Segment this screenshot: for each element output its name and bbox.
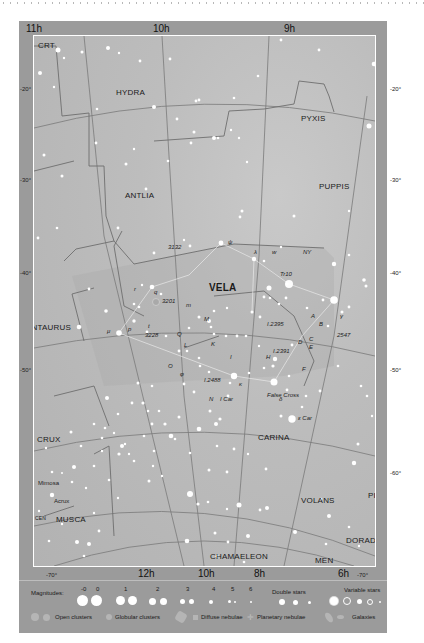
dso-label-ny: NY — [303, 249, 311, 255]
dec-right-40: -40° — [390, 270, 401, 276]
dec-left-70: -70° — [46, 572, 57, 578]
constellation-chamaeleon: CHAMAELEON — [210, 552, 268, 561]
mag-dot-3a — [180, 599, 185, 604]
constellation-musca: MUSCA — [56, 515, 86, 524]
double-star-icon — [293, 600, 298, 605]
star-label-A: A — [311, 313, 315, 319]
dec-left-40: -40° — [20, 270, 31, 276]
dso-label-3132: 3132 — [168, 244, 181, 250]
legend-mag-4: 4 — [212, 586, 215, 592]
constellation-pyxis: PYXIS — [301, 114, 326, 123]
star-label-I: I — [230, 354, 232, 360]
star-label-H: H — [266, 354, 270, 360]
dec-right-20: -20° — [390, 86, 401, 92]
legend-mag-0: 0 — [96, 586, 99, 592]
star-label-B: B — [319, 321, 323, 327]
constellation-carina: CARINA — [258, 433, 289, 442]
star-label-r: r — [134, 286, 136, 292]
galaxy-icon — [337, 615, 344, 619]
ra-bottom-6h: 6h — [338, 568, 349, 579]
constellation-dorado: DORADO — [346, 536, 376, 545]
galaxy-icon — [323, 611, 334, 623]
mag-dot-4 — [209, 600, 213, 604]
legend-diffuse-nebulae: Diffuse nebulae — [201, 614, 243, 620]
legend-double-stars: Double stars — [272, 589, 306, 595]
globular-cluster-icon — [106, 614, 112, 620]
mag-dot-1b — [128, 596, 137, 605]
star-label-Q: Q — [177, 331, 182, 337]
ra-label-9h: 9h — [284, 23, 295, 34]
star-label-i-car: I Car — [220, 396, 233, 402]
legend-galaxies: Galaxies — [352, 614, 375, 620]
constellation-centaurus: CENTAURUS — [33, 323, 71, 332]
star-label-q: q — [154, 289, 157, 295]
open-cluster-icon — [31, 613, 39, 621]
mag-dot-3b — [189, 599, 194, 604]
dso-label-tr10: Tr10 — [280, 271, 292, 277]
dso-label-i2391: I.2391 — [273, 348, 290, 354]
legend-variable-stars: Variable stars — [344, 587, 380, 593]
mag-dot-2b — [160, 598, 167, 605]
legend-planetary-nebulae: Planetary nebulae — [257, 614, 305, 620]
star-label-kappa: κ — [239, 381, 242, 387]
variable-star-icon — [330, 597, 338, 605]
dec-right-60: -60° — [390, 470, 401, 476]
dso-label-3228: 3228 — [145, 332, 158, 338]
ra-bottom-10h: 10h — [198, 568, 215, 579]
ra-label-10h: 10h — [153, 23, 170, 34]
ra-label-11h: 11h — [26, 23, 42, 34]
star-label-N: N — [209, 396, 213, 402]
dec-right-50: -50° — [390, 367, 401, 373]
legend-mag-3: 3 — [186, 586, 189, 592]
dec-right-30: -30° — [390, 177, 401, 183]
legend-mag-1: 1 — [124, 586, 127, 592]
star-label-eps-car: ε Car — [298, 415, 312, 421]
star-label-lambda: λ — [254, 249, 257, 255]
star-label-p: p — [128, 326, 131, 332]
star-label-F: F — [302, 366, 306, 372]
dso-label-i2395: I.2395 — [267, 321, 284, 327]
star-label-K: K — [211, 341, 215, 347]
star-label-mimosa: Mimosa — [38, 480, 59, 486]
diffuse-nebula-icon — [174, 610, 188, 624]
variable-star-icon — [379, 601, 381, 603]
star-label-m: m — [186, 302, 191, 308]
asterism-label-false-cross: False Cross — [267, 392, 299, 398]
mag-dot-m0 — [77, 595, 88, 606]
star-label-phi: φ — [180, 371, 184, 377]
legend-mag-5: 5 — [231, 586, 234, 592]
constellation-crt: CRT — [38, 41, 55, 50]
star-label-mu: μ — [107, 328, 110, 334]
dso-label-3201: 3201 — [162, 298, 175, 304]
double-star-icon — [279, 599, 285, 605]
dec-left-50: -50° — [20, 367, 31, 373]
mag-dot-1a — [116, 596, 125, 605]
star-label-gamma: γ — [340, 313, 343, 319]
double-star-icon — [308, 601, 311, 604]
star-label-delta: δ — [279, 396, 282, 402]
star-label-acrux: Acrux — [54, 498, 69, 504]
sky-map[interactable]: CRT HYDRA PYXIS ANTLIA PUPPIS VELA CENTA… — [33, 35, 376, 567]
star-label-t: t — [148, 323, 150, 329]
ra-bottom-12h: 12h — [138, 568, 155, 579]
star-label-C: C — [309, 336, 313, 342]
star-label-E: E — [309, 344, 313, 350]
mag-dot-6 — [250, 601, 252, 603]
mag-dot-2a — [149, 598, 156, 605]
dso-label-i2488: I.2488 — [204, 377, 221, 383]
legend-open-clusters: Open clusters — [55, 614, 92, 620]
mag-dot-0 — [91, 595, 102, 606]
constellation-antlia: ANTLIA — [125, 191, 154, 200]
diffuse-nebula-icon — [193, 615, 198, 620]
ra-bottom-8h: 8h — [254, 568, 265, 579]
constellation-cen: CEN — [35, 515, 46, 521]
planetary-nebula-icon: ✛ — [247, 613, 254, 622]
legend-mag-2: 2 — [156, 586, 159, 592]
constellation-hydra: HYDRA — [116, 88, 145, 97]
top-dotted-border — [0, 2, 424, 4]
variable-star-icon — [367, 599, 373, 605]
star-label-L: L — [184, 342, 187, 348]
dec-left-20: -20° — [20, 86, 31, 92]
constellation-men: MEN — [315, 556, 333, 565]
open-cluster-icon — [43, 614, 50, 621]
